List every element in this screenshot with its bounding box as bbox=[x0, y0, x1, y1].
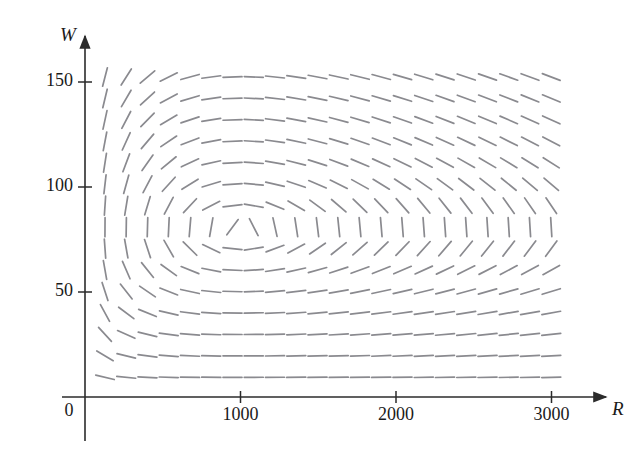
slope-segment bbox=[182, 179, 198, 189]
slope-segment bbox=[372, 75, 390, 80]
slope-segment bbox=[402, 218, 404, 237]
slope-segment bbox=[223, 77, 242, 78]
slope-segment bbox=[551, 218, 552, 237]
slope-segment bbox=[121, 90, 131, 106]
slope-segment bbox=[120, 284, 132, 299]
slope-segment bbox=[287, 97, 306, 100]
slope-segment bbox=[522, 266, 539, 275]
slope-segment bbox=[202, 334, 221, 335]
slope-segment bbox=[544, 178, 558, 190]
slope-segment bbox=[542, 311, 561, 314]
slope-segment bbox=[436, 355, 455, 356]
slope-segment bbox=[444, 218, 445, 237]
slope-segment bbox=[103, 68, 108, 86]
slope-segment bbox=[288, 201, 304, 211]
slope-segment bbox=[353, 199, 367, 212]
slope-segment bbox=[266, 97, 285, 99]
slope-segment bbox=[138, 355, 157, 357]
slope-segment bbox=[478, 355, 497, 356]
slope-segment bbox=[351, 159, 369, 166]
slope-segment bbox=[500, 116, 517, 124]
slope-segment bbox=[372, 355, 391, 356]
slope-segments-group bbox=[96, 68, 561, 380]
slope-segment bbox=[287, 312, 306, 313]
slope-segment bbox=[375, 199, 388, 213]
x-tick-label: 3000 bbox=[512, 404, 592, 425]
slope-segment bbox=[500, 95, 518, 102]
slope-segment bbox=[287, 118, 306, 121]
slope-segment bbox=[99, 327, 112, 341]
slope-segment bbox=[181, 159, 198, 167]
x-tick-label: 2000 bbox=[356, 404, 436, 425]
slope-segment bbox=[394, 138, 412, 145]
slope-segment bbox=[503, 241, 515, 256]
slope-segment bbox=[183, 242, 197, 255]
slope-segment bbox=[122, 261, 130, 278]
slope-segment bbox=[436, 137, 453, 145]
slope-segment bbox=[329, 75, 348, 79]
slope-segment bbox=[373, 179, 389, 189]
slope-segment bbox=[418, 198, 430, 213]
slope-segment bbox=[202, 140, 221, 143]
slope-segment bbox=[223, 270, 242, 271]
slope-segment bbox=[415, 95, 433, 101]
slope-segment bbox=[223, 205, 242, 207]
slope-segment bbox=[181, 74, 199, 79]
slope-segment bbox=[352, 180, 369, 189]
slope-segment bbox=[457, 116, 475, 123]
slope-segment bbox=[202, 118, 221, 121]
slope-segment bbox=[162, 177, 175, 191]
slope-segment bbox=[329, 334, 348, 335]
slope-segment bbox=[287, 268, 306, 272]
slope-segment bbox=[479, 116, 497, 123]
slope-segment bbox=[287, 76, 306, 79]
slope-segment bbox=[244, 183, 263, 185]
slope-segment bbox=[372, 312, 391, 314]
slope-segment bbox=[479, 158, 495, 168]
slope-segment bbox=[458, 158, 475, 167]
slope-segment bbox=[203, 245, 220, 253]
slope-segment bbox=[436, 334, 455, 336]
slope-segment bbox=[181, 312, 200, 314]
slope-segment bbox=[457, 334, 476, 336]
slope-segment bbox=[308, 97, 327, 101]
slope-segment bbox=[521, 311, 540, 314]
slope-segment bbox=[394, 159, 411, 167]
slope-segment bbox=[330, 117, 348, 122]
slope-segment bbox=[380, 218, 382, 237]
slope-segment bbox=[223, 248, 242, 250]
slope-segment bbox=[203, 201, 220, 210]
slope-segment bbox=[295, 218, 298, 237]
slope-segment bbox=[395, 179, 411, 189]
slope-segment bbox=[417, 242, 430, 256]
slope-segment bbox=[499, 311, 518, 314]
slope-segment bbox=[125, 239, 128, 258]
slope-segment bbox=[480, 178, 495, 190]
slope-segment bbox=[104, 153, 107, 172]
x-axis-label: R bbox=[612, 398, 624, 420]
slope-segment bbox=[266, 334, 285, 335]
x-tick-label: 1000 bbox=[201, 404, 281, 425]
y-tick-label: 150 bbox=[0, 70, 73, 91]
slope-segment bbox=[329, 356, 348, 357]
slope-segment bbox=[374, 242, 388, 255]
slope-segment bbox=[415, 158, 432, 167]
slope-segment bbox=[542, 333, 561, 335]
slope-segment bbox=[161, 157, 176, 169]
slope-segment bbox=[104, 239, 105, 258]
slope-segment bbox=[159, 377, 178, 378]
slope-segment bbox=[202, 312, 221, 313]
slope-segment bbox=[457, 74, 475, 80]
slope-segment bbox=[118, 331, 135, 339]
slope-segment bbox=[102, 282, 108, 300]
slope-segment bbox=[393, 334, 412, 336]
slope-segment bbox=[145, 197, 151, 215]
slope-segment bbox=[244, 269, 263, 270]
slope-segment bbox=[104, 175, 106, 194]
slope-segment bbox=[159, 355, 178, 356]
slope-segment bbox=[396, 242, 409, 256]
slope-segment bbox=[202, 268, 221, 272]
slope-segment bbox=[542, 355, 561, 356]
slope-segment bbox=[351, 96, 369, 101]
slope-segment bbox=[351, 355, 370, 356]
